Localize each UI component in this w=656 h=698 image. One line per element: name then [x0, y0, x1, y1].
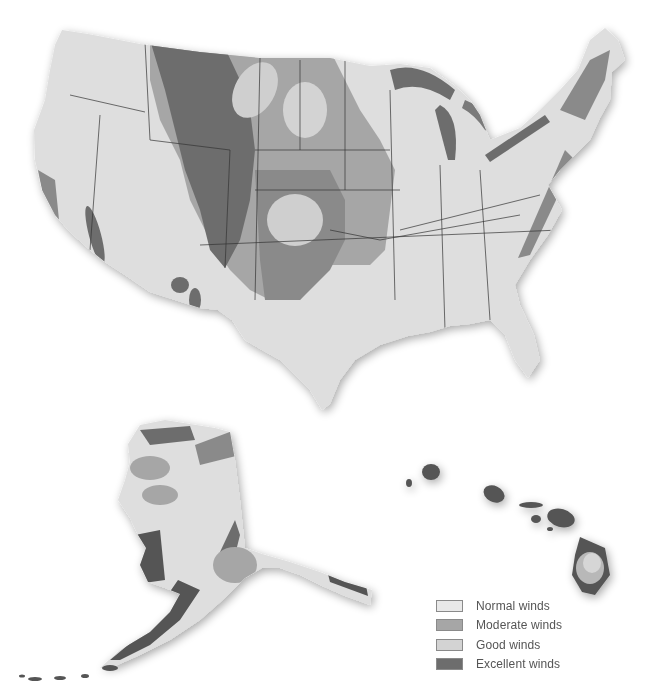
legend-label: Normal winds: [476, 599, 550, 613]
legend-item-normal: Normal winds: [436, 596, 636, 616]
swatch-good: [436, 639, 463, 651]
legend-item-good: Good winds: [436, 635, 636, 655]
legend-item-moderate: Moderate winds: [436, 616, 636, 636]
legend-label: Good winds: [476, 638, 540, 652]
legend-label: Moderate winds: [476, 618, 562, 632]
swatch-moderate: [436, 619, 463, 631]
legend: Normal winds Moderate winds Good winds E…: [436, 596, 636, 674]
swatch-excellent: [436, 658, 463, 670]
swatch-normal: [436, 600, 463, 612]
aleutian-islands: [19, 665, 118, 681]
wind-resource-map: [0, 0, 656, 698]
legend-label: Excellent winds: [476, 657, 560, 671]
legend-item-excellent: Excellent winds: [436, 655, 636, 675]
